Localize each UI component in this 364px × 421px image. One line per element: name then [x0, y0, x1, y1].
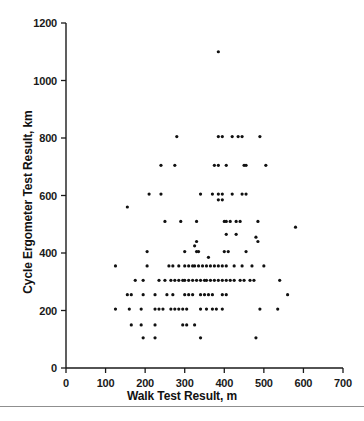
data-point [181, 323, 184, 326]
data-point [254, 236, 257, 239]
data-point [213, 264, 216, 267]
data-point [231, 192, 234, 195]
data-point [128, 307, 131, 310]
x-tick-label: 100 [97, 377, 115, 389]
data-point [286, 293, 289, 296]
data-point [175, 135, 178, 138]
data-point [197, 250, 200, 253]
data-point [213, 279, 216, 282]
data-point [225, 293, 228, 296]
data-point [183, 264, 186, 267]
data-point [157, 307, 160, 310]
data-point [217, 164, 220, 167]
data-point [126, 293, 129, 296]
data-point [195, 279, 198, 282]
data-point [217, 264, 220, 267]
data-point [169, 279, 172, 282]
data-point [163, 279, 166, 282]
data-point [256, 220, 259, 223]
data-point [146, 250, 149, 253]
x-tick-label: 400 [215, 377, 233, 389]
data-point [242, 279, 245, 282]
data-point [213, 164, 216, 167]
data-point [173, 279, 176, 282]
data-point [221, 293, 224, 296]
data-point [177, 279, 180, 282]
data-point [258, 307, 261, 310]
plot-canvas [0, 0, 364, 421]
data-point [142, 279, 145, 282]
y-tick-label: 0 [0, 362, 57, 374]
data-point [177, 307, 180, 310]
data-point [217, 192, 220, 195]
data-point [161, 307, 164, 310]
data-point [157, 279, 160, 282]
data-point [217, 135, 220, 138]
data-point [114, 307, 117, 310]
data-point [183, 279, 186, 282]
data-point [159, 192, 162, 195]
data-point-group [114, 50, 297, 339]
data-point [225, 164, 228, 167]
data-point [276, 307, 279, 310]
data-point [211, 192, 214, 195]
data-point [179, 220, 182, 223]
data-point [225, 233, 228, 236]
data-point [177, 264, 180, 267]
data-point [130, 323, 133, 326]
y-tick-label: 1200 [0, 17, 57, 29]
data-point [183, 250, 186, 253]
data-point [165, 293, 168, 296]
data-point [130, 293, 133, 296]
data-point [185, 307, 188, 310]
data-point [240, 135, 243, 138]
data-point [153, 307, 156, 310]
data-point [197, 264, 200, 267]
data-point [146, 264, 149, 267]
y-axis-title: Cycle Ergometer Test Result, km [21, 82, 35, 322]
data-point [201, 264, 204, 267]
x-axis-title: Walk Test Result, m [0, 389, 364, 403]
data-point [229, 279, 232, 282]
data-point [235, 233, 238, 236]
data-point [126, 205, 129, 208]
data-point [205, 279, 208, 282]
data-point [148, 192, 151, 195]
x-axis-ticks [66, 368, 343, 373]
data-point [250, 264, 253, 267]
data-point [207, 293, 210, 296]
data-point [221, 135, 224, 138]
data-point [237, 135, 240, 138]
data-point [185, 323, 188, 326]
data-point [221, 264, 224, 267]
data-point [223, 250, 226, 253]
page-divider-rule [0, 406, 364, 407]
data-point [239, 220, 242, 223]
data-point [193, 244, 196, 247]
data-point [221, 279, 224, 282]
data-point [258, 135, 261, 138]
data-point [142, 293, 145, 296]
data-point [193, 264, 196, 267]
data-point [217, 50, 220, 53]
data-point [205, 307, 208, 310]
data-point [264, 164, 267, 167]
data-point [211, 307, 214, 310]
data-point [183, 293, 186, 296]
data-point [225, 264, 228, 267]
data-point [205, 264, 208, 267]
data-point [153, 323, 156, 326]
data-point [153, 293, 156, 296]
data-point [225, 220, 228, 223]
data-point [191, 293, 194, 296]
data-point [248, 279, 251, 282]
x-tick-label: 300 [176, 377, 194, 389]
data-point [225, 279, 228, 282]
data-point [256, 240, 259, 243]
data-point [167, 264, 170, 267]
data-point [211, 293, 214, 296]
data-point [193, 323, 196, 326]
data-point [199, 293, 202, 296]
data-point [153, 336, 156, 339]
x-tick-label: 0 [63, 377, 69, 389]
